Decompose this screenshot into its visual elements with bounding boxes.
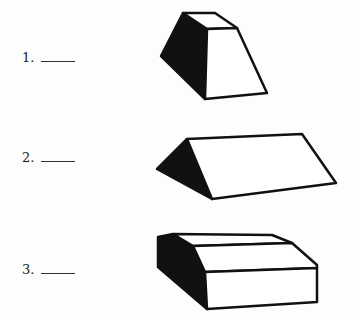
shape-1-frustum-icon: [161, 13, 267, 99]
shapes-canvas: [0, 0, 353, 320]
shape-2-prism-icon: [157, 134, 336, 199]
shape-3-box-icon: [158, 234, 317, 309]
